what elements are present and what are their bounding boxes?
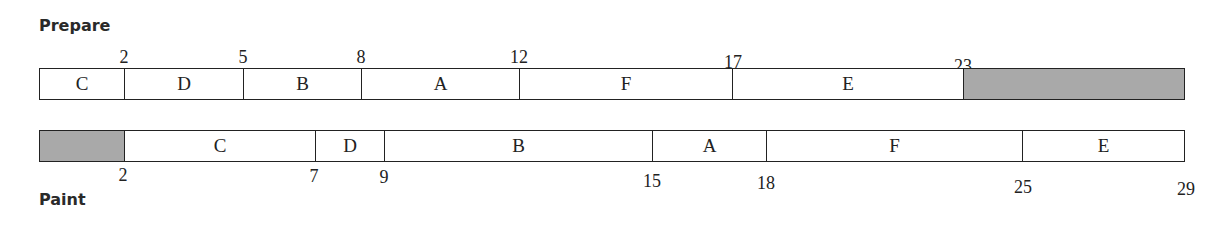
paint-task-d: D [316,131,385,161]
paint-tick: 18 [757,174,775,192]
paint-tick: 25 [1014,178,1032,196]
paint-row-label: Paint [39,190,86,209]
prepare-task-a: A [362,69,520,99]
paint-task-c: C [125,131,316,161]
prepare-task-f: F [520,69,733,99]
prepare-row-label: Prepare [39,16,110,35]
paint-idle-block [40,131,125,161]
paint-tick: 2 [119,166,128,184]
prepare-task-b: B [244,69,362,99]
paint-task-b: B [385,131,653,161]
prepare-task-c: C [40,69,125,99]
prepare-tick: 8 [357,48,366,66]
paint-task-e: E [1023,131,1184,161]
paint-timeline-bar: C D B A F E [39,130,1185,162]
paint-tick: 15 [643,172,661,190]
prepare-task-e: E [733,69,964,99]
paint-task-a: A [653,131,767,161]
prepare-timeline-bar: C D B A F E [39,68,1185,100]
paint-tick: 29 [1177,180,1195,198]
prepare-task-d: D [125,69,244,99]
paint-tick: 9 [380,168,389,186]
prepare-tick: 12 [510,48,528,66]
prepare-idle-block [964,69,1184,99]
prepare-tick: 5 [239,48,248,66]
paint-task-f: F [767,131,1023,161]
paint-tick: 7 [310,167,319,185]
prepare-tick: 2 [120,48,129,66]
